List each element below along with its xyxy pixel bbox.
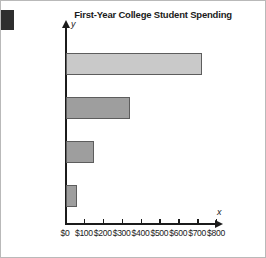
bar-dorm-decor	[66, 97, 130, 119]
x-axis-tick	[159, 219, 160, 225]
bar-clothing	[66, 141, 94, 163]
x-axis-tick	[178, 219, 179, 225]
x-axis-tick	[103, 219, 104, 225]
x-axis-tick-label: $300	[113, 228, 131, 238]
chart-title: First-Year College Student Spending	[1, 9, 266, 20]
x-axis-tick-label: $500	[150, 228, 168, 238]
x-axis-tick	[141, 219, 142, 225]
bar-electronics	[66, 53, 202, 75]
x-axis-label: x	[217, 207, 222, 217]
y-axis-arrow-icon	[62, 20, 70, 28]
x-axis-tick-label: $800	[207, 228, 225, 238]
plot-area: y x $0$100$200$300$400$500$600$700$800 E…	[65, 27, 216, 225]
x-axis-tick-label: $100	[75, 228, 93, 238]
x-axis-tick	[216, 219, 217, 225]
x-axis-tick-label: $600	[169, 228, 187, 238]
y-axis-label: y	[71, 19, 76, 29]
x-axis-tick-label: $200	[94, 228, 112, 238]
bar-shoes	[66, 185, 77, 207]
x-axis-tick	[197, 219, 198, 225]
x-axis-tick-label: $400	[132, 228, 150, 238]
x-axis-tick	[122, 219, 123, 225]
x-axis-tick-label: $0	[61, 228, 70, 238]
x-axis-tick	[84, 219, 85, 225]
x-axis-tick-label: $700	[188, 228, 206, 238]
chart-screenshot: First-Year College Student Spending y x …	[0, 0, 266, 258]
x-axis-tick	[65, 219, 66, 225]
